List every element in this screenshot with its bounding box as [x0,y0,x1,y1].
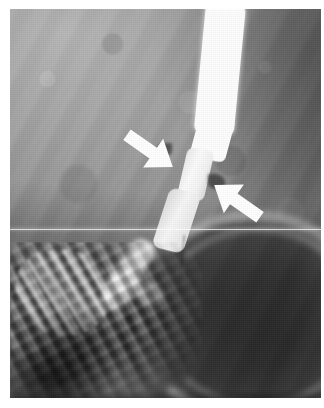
radiograph-figure [0,0,324,408]
annotation-arrow-upper[interactable] [120,125,182,177]
figure-caption-area [0,399,324,408]
arrow-glyph-lower [204,171,270,232]
arrow-glyph-upper [117,120,183,181]
film-bottom-edge [10,390,321,398]
scanline-artifact [10,229,321,230]
radiograph-image[interactable] [10,9,321,398]
annotation-arrow-lower[interactable] [205,175,267,227]
